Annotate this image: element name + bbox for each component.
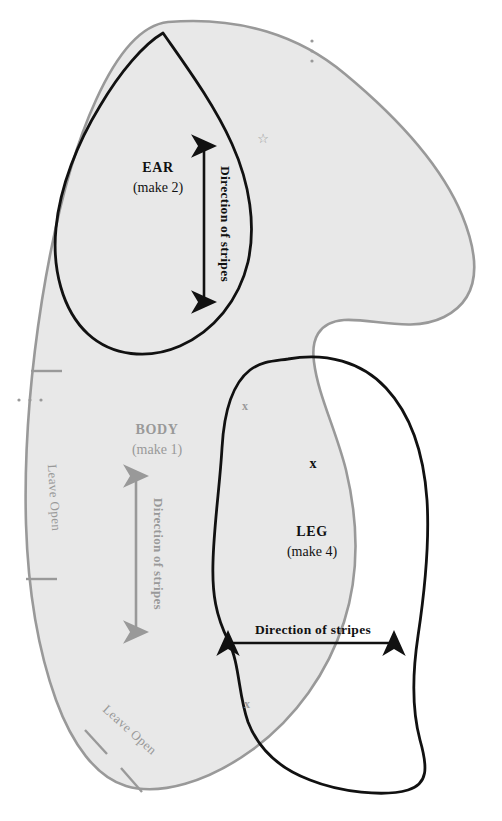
ear-piece-quantity: (make 2) bbox=[133, 180, 183, 196]
ear-direction-label: Direction of stripes bbox=[218, 166, 233, 282]
leg-piece-name: LEG bbox=[296, 524, 327, 539]
leg-piece-quantity: (make 4) bbox=[287, 544, 337, 560]
body-piece-quantity: (make 1) bbox=[132, 442, 182, 458]
ear-piece-name: EAR bbox=[142, 160, 174, 175]
x-marker-gray-upper: x bbox=[242, 399, 248, 413]
x-marker-black: x bbox=[310, 456, 317, 471]
pattern-sheet: Direction of stripes EAR (make 2) Direct… bbox=[0, 0, 502, 821]
star-marker-icon: ☆ bbox=[257, 131, 269, 146]
body-piece-name: BODY bbox=[136, 422, 179, 437]
x-marker-gray-lower: x bbox=[244, 697, 250, 711]
body-piece-outline[interactable] bbox=[26, 21, 474, 789]
body-direction-label: Direction of stripes bbox=[151, 498, 166, 610]
leg-direction-label: Direction of stripes bbox=[255, 622, 371, 637]
pattern-diagram: Direction of stripes EAR (make 2) Direct… bbox=[0, 0, 502, 821]
